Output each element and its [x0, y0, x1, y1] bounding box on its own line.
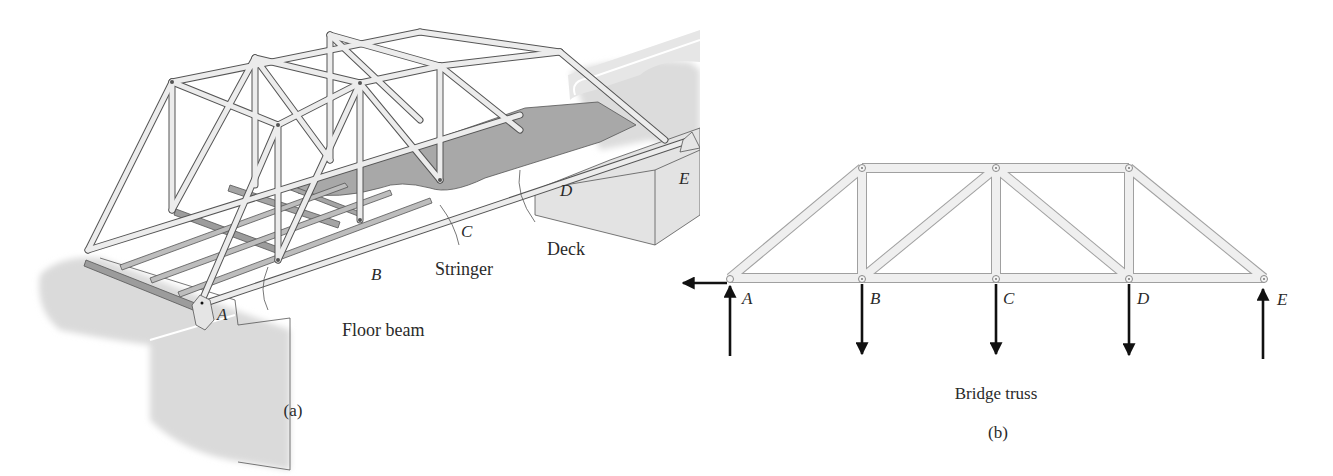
node-label-c: C — [461, 222, 473, 241]
caption-a: (a) — [284, 401, 303, 420]
node-label-e: E — [678, 169, 690, 188]
callout-stringer: Stringer — [435, 259, 493, 279]
truss-title: Bridge truss — [955, 384, 1038, 403]
truss-node-label-a: A — [741, 289, 753, 308]
truss-node-label-b: B — [870, 289, 881, 308]
caption-b: (b) — [988, 423, 1008, 442]
truss-node-label-e: E — [1276, 290, 1288, 309]
force-arrows — [683, 283, 1263, 359]
callout-floor-beam: Floor beam — [342, 320, 425, 340]
truss-members-2d — [730, 168, 1264, 278]
figure-a-bridge-3d: A B C D E Floor beam Stringer Deck (a) — [0, 0, 700, 476]
node-label-b: B — [371, 265, 382, 284]
truss-node-label-c: C — [1003, 289, 1015, 308]
node-label-a: A — [216, 305, 228, 324]
callout-deck: Deck — [547, 239, 585, 259]
node-label-d: D — [559, 181, 573, 200]
truss-pins-2d — [727, 165, 1268, 283]
truss-node-label-d: D — [1136, 289, 1150, 308]
